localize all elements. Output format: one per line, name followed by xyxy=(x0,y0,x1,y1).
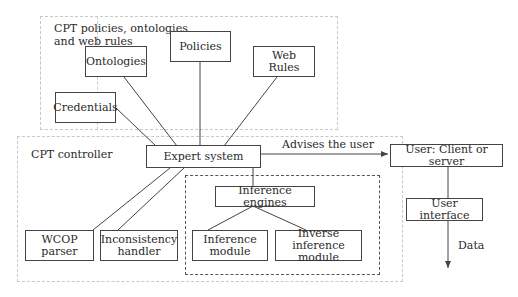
inference-engines-node: Inference engines xyxy=(215,186,315,207)
inverse-inference-module-node: Inverse inference module xyxy=(275,230,362,261)
inference-module-node: Inference module xyxy=(192,230,268,261)
controller-group-title: CPT controller xyxy=(31,148,113,161)
data-label: Data xyxy=(458,239,484,252)
user-interface-node: User interface xyxy=(406,198,483,221)
wcop-parser-node: WCOP parser xyxy=(25,230,94,261)
expert-system-node: Expert system xyxy=(146,145,261,168)
user-client-server-node: User: Client or server xyxy=(390,144,503,167)
ontologies-node: Ontologies xyxy=(85,46,147,77)
inconsistency-handler-node: Inconsistency handler xyxy=(100,230,178,261)
policies-node: Policies xyxy=(170,31,231,62)
credentials-node: Credentials xyxy=(55,92,116,123)
policies-group-title: CPT policies, ontologies and web rules xyxy=(54,22,188,48)
web-rules-node: Web Rules xyxy=(253,46,315,77)
advises-the-user-label: Advises the user xyxy=(282,138,374,151)
cpt-architecture-diagram: CPT policies, ontologies and web rules C… xyxy=(0,0,518,297)
